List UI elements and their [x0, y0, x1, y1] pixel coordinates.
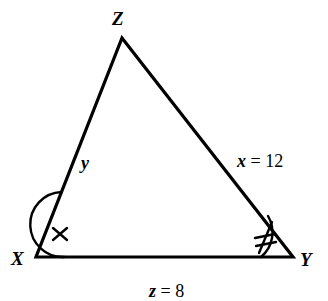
side-variable-y: y [81, 153, 89, 173]
side-value-x: 12 [265, 151, 283, 171]
vertex-label-x: X [11, 249, 24, 268]
vertex-label-y: Y [300, 250, 312, 269]
angle-tick-y-2 [256, 242, 276, 246]
side-label-xy: z = 8 [131, 264, 184, 301]
side-value-z: 8 [175, 281, 184, 301]
vertex-label-z: Z [112, 9, 124, 28]
side-relation-x: = [246, 151, 265, 171]
side-relation-z: = [156, 281, 175, 301]
side-variable-x: x [237, 151, 246, 171]
side-label-zy: x = 12 [219, 134, 283, 188]
side-label-xz: y [63, 136, 89, 190]
side-variable-z: z [149, 281, 156, 301]
